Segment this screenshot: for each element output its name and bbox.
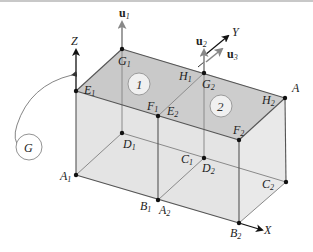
label-B1: B1 bbox=[140, 199, 151, 214]
face-2-badge: 2 bbox=[210, 95, 232, 117]
svg-text:2: 2 bbox=[217, 99, 224, 114]
box-diagram: Z X Y u1 u2 u3 G 1 2 bbox=[0, 0, 313, 252]
svg-text:1: 1 bbox=[136, 77, 143, 92]
x-axis-label: X bbox=[263, 223, 272, 237]
z-axis-label: Z bbox=[71, 34, 78, 48]
u2-label: u2 bbox=[196, 34, 207, 49]
label-A: A bbox=[291, 81, 300, 95]
rotation-label: G bbox=[24, 141, 33, 155]
y-axis-label: Y bbox=[232, 25, 240, 39]
u1-label: u1 bbox=[119, 6, 130, 21]
label-B2: B2 bbox=[230, 226, 241, 241]
u2-vector: u2 bbox=[196, 34, 207, 73]
label-A2: A2 bbox=[158, 203, 170, 218]
u3-vector: u3 bbox=[206, 47, 238, 62]
rotation-g: G bbox=[15, 75, 72, 160]
u3-label: u3 bbox=[227, 47, 238, 62]
x-axis: X bbox=[239, 223, 272, 237]
u1-vector: u1 bbox=[119, 6, 130, 49]
z-axis: Z bbox=[71, 34, 78, 91]
label-A1: A1 bbox=[59, 169, 71, 184]
face-1-badge: 1 bbox=[128, 73, 150, 95]
